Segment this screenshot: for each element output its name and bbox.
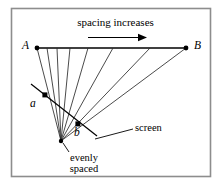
label-point-B: B [194,40,201,52]
vertex-marker [59,139,63,143]
label-spaced: spaced [48,164,120,175]
label-point-A: A [22,40,29,52]
point-A-marker [35,46,40,51]
point-a-marker [42,92,47,97]
label-point-a: a [30,98,36,110]
figure-container: spacing increases A B a b screen evenly … [0,0,222,188]
label-point-b: b [74,127,80,139]
label-screen: screen [135,123,162,134]
caption-spacing-increases: spacing increases [58,17,173,28]
point-B-marker [184,46,189,51]
